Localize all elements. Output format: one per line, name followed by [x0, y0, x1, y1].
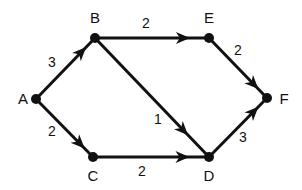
- node-dot: [31, 94, 41, 104]
- edge-weight: 2: [138, 163, 146, 179]
- node-label: B: [90, 9, 100, 26]
- node-label: A: [18, 90, 28, 107]
- node-E: E: [204, 9, 214, 43]
- edge-weight: 2: [234, 42, 242, 58]
- edge-B-D: 1: [95, 38, 209, 157]
- node-F: F: [262, 90, 289, 107]
- node-C: C: [88, 152, 99, 184]
- node-dot: [262, 93, 272, 103]
- edge-B-E: 2: [95, 15, 209, 44]
- edges-group: 3221223: [36, 15, 267, 179]
- edge-weight: 3: [48, 54, 56, 70]
- node-dot: [90, 33, 100, 43]
- node-dot: [204, 33, 214, 43]
- edge-A-C: 2: [36, 99, 93, 157]
- edge-E-F: 2: [209, 38, 267, 98]
- edge-C-D: 2: [93, 151, 209, 179]
- edge-D-F: 3: [209, 98, 267, 157]
- node-label: E: [204, 9, 214, 26]
- node-label: F: [279, 90, 288, 107]
- node-dot: [204, 152, 214, 162]
- edge-weight: 3: [239, 129, 247, 145]
- edge-line: [95, 38, 209, 157]
- node-A: A: [18, 90, 41, 107]
- edge-weight: 2: [142, 15, 150, 31]
- node-D: D: [204, 152, 215, 184]
- node-label: C: [88, 167, 99, 184]
- edge-A-B: 3: [36, 38, 95, 99]
- node-B: B: [90, 9, 100, 43]
- weighted-directed-graph: 3221223 ABEFCD: [0, 0, 302, 190]
- node-label: D: [204, 167, 215, 184]
- node-dot: [88, 152, 98, 162]
- edge-weight: 2: [48, 123, 56, 139]
- edge-weight: 1: [154, 111, 162, 127]
